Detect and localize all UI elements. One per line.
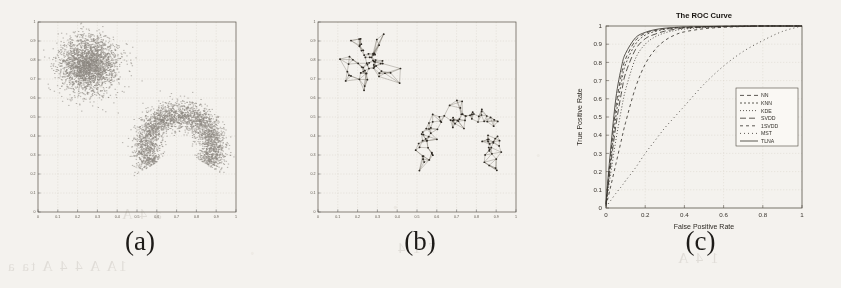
x-tick-label: 0.8 — [758, 211, 767, 218]
graph-nodes — [340, 34, 501, 170]
panel-b: 00.10.20.30.40.50.60.70.80.9100.10.20.30… — [280, 0, 560, 288]
y-tick-label: 0.9 — [31, 39, 36, 43]
x-tick-label: 0.2 — [355, 215, 360, 219]
y-tick-label: 0.6 — [593, 95, 602, 102]
y-tick-label: 0.8 — [311, 58, 316, 62]
x-tick-label: 0.3 — [375, 215, 380, 219]
x-tick-label: 0.7 — [174, 215, 179, 219]
x-tick-label: 0.6 — [719, 211, 728, 218]
x-tick-label: 0.5 — [415, 215, 420, 219]
y-tick-label: 0.4 — [593, 131, 602, 138]
legend-label-SVDD: SVDD — [761, 115, 776, 121]
scatter-points — [43, 23, 234, 176]
y-tick-label: 1 — [314, 20, 316, 24]
x-tick-label: 0.6 — [434, 215, 439, 219]
panel-c: The ROC Curve00.20.40.60.8100.10.20.30.4… — [560, 0, 841, 288]
y-tick-label: 0.5 — [31, 115, 36, 119]
legend-label-1SVDD: 1SVDD — [761, 123, 779, 129]
y-tick-label: 0.4 — [31, 134, 36, 138]
x-tick-label: 0.4 — [115, 215, 120, 219]
y-tick-label: 0.7 — [31, 77, 36, 81]
nodes-crescent-cluster-graph — [416, 100, 502, 170]
x-tick-label: 0.4 — [395, 215, 400, 219]
y-tick-label: 1 — [34, 20, 36, 24]
y-tick-label: 0.6 — [31, 96, 36, 100]
y-axis-label: True Positive Rate — [576, 88, 583, 145]
edges-gaussian-cluster-graph — [340, 34, 400, 90]
y-tick-label: 0.5 — [311, 115, 316, 119]
legend-label-TLNA: TLNA — [761, 138, 775, 144]
x-tick-label: 0.6 — [154, 215, 159, 219]
legend-label-KNN: KNN — [761, 100, 772, 106]
y-tick-label: 0.1 — [31, 191, 36, 195]
y-tick-label: 1 — [599, 22, 603, 29]
x-tick-label: 0.3 — [95, 215, 100, 219]
x-tick-label: 1 — [800, 211, 804, 218]
y-tick-label: 0.9 — [593, 40, 602, 47]
x-tick-label: 0.8 — [194, 215, 199, 219]
y-tick-label: 0.1 — [311, 191, 316, 195]
y-tick-label: 0.2 — [593, 168, 602, 175]
x-tick-label: 0.4 — [680, 211, 689, 218]
panel-a: 00.10.20.30.40.50.60.70.80.9100.10.20.30… — [0, 0, 280, 288]
x-tick-label: 0 — [604, 211, 608, 218]
y-tick-label: 0.2 — [311, 172, 316, 176]
y-tick-label: 0.8 — [593, 59, 602, 66]
point-cloud-gaussian-cluster — [43, 23, 142, 113]
y-tick-label: 0.1 — [593, 186, 602, 193]
chart-title: The ROC Curve — [676, 11, 732, 20]
x-tick-label: 0.1 — [335, 215, 340, 219]
x-tick-label: 0.5 — [135, 215, 140, 219]
y-tick-label: 0 — [599, 204, 603, 211]
y-tick-label: 0.2 — [31, 172, 36, 176]
x-tick-label: 0 — [317, 215, 319, 219]
x-tick-label: 0 — [37, 215, 39, 219]
x-tick-label: 0.9 — [214, 215, 219, 219]
y-tick-label: 0.6 — [311, 96, 316, 100]
x-tick-label: 0.9 — [494, 215, 499, 219]
x-tick-label: 0.1 — [55, 215, 60, 219]
legend: NNKNNKDESVDD1SVDDMSTTLNA — [736, 88, 798, 146]
x-tick-label: 0.8 — [474, 215, 479, 219]
panel-c-caption: (c) — [560, 226, 841, 257]
y-tick-label: 0.5 — [593, 113, 602, 120]
y-tick-label: 0.3 — [593, 150, 602, 157]
y-tick-label: 0.8 — [31, 58, 36, 62]
y-tick-label: 0 — [314, 210, 316, 214]
y-tick-label: 0.4 — [311, 134, 316, 138]
x-tick-label: 0.7 — [454, 215, 459, 219]
panel-b-caption: (b) — [280, 226, 560, 257]
y-tick-label: 0 — [34, 210, 36, 214]
y-tick-label: 0.7 — [593, 77, 602, 84]
x-tick-label: 1 — [515, 215, 517, 219]
y-tick-label: 0.3 — [31, 153, 36, 157]
legend-label-KDE: KDE — [761, 108, 772, 114]
legend-label-NN: NN — [761, 92, 769, 98]
x-tick-label: 1 — [235, 215, 237, 219]
panel-a-caption: (a) — [0, 226, 280, 257]
y-tick-label: 0.9 — [311, 39, 316, 43]
y-tick-label: 0.3 — [311, 153, 316, 157]
legend-label-MST: MST — [761, 130, 773, 136]
y-tick-label: 0.7 — [311, 77, 316, 81]
x-tick-label: 0.2 — [641, 211, 650, 218]
point-cloud-crescent-cluster — [122, 91, 234, 176]
x-tick-label: 0.2 — [75, 215, 80, 219]
